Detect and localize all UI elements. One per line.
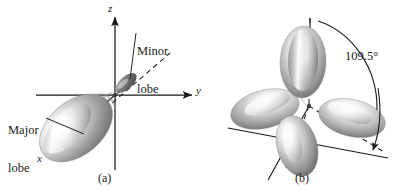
minor-lobe-callout: Minor lobe (137, 19, 168, 121)
major-lobe-callout-line2: lobe (8, 162, 39, 175)
orbital-figure: z y x Minor lobe Major lobe (a) 109.5° (… (0, 0, 415, 195)
lobe-right (315, 92, 390, 143)
origin-point-a (113, 93, 117, 97)
angle-arc-upper (318, 21, 377, 110)
bond-angle-label: 109.5° (345, 50, 378, 63)
minor-lobe-leader (130, 33, 136, 79)
lobe-top (279, 25, 327, 99)
figure-canvas (0, 0, 415, 195)
minor-lobe-callout-line1: Minor (137, 45, 168, 58)
major-lobe-callout: Major lobe (8, 98, 39, 195)
origin-point-b (307, 104, 311, 108)
panel-b-caption: (b) (295, 172, 309, 184)
y-axis-label: y (196, 85, 201, 96)
panel-a-caption: (a) (98, 172, 111, 184)
minor-lobe-callout-line2: lobe (137, 83, 168, 96)
panel-b-graphics (226, 18, 389, 181)
major-lobe-callout-line1: Major (8, 124, 39, 137)
z-axis-label: z (108, 3, 112, 14)
